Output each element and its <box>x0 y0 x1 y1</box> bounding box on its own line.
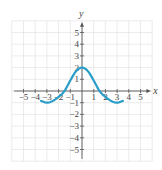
svg-text:3: 3 <box>115 92 120 102</box>
svg-text:−4: −4 <box>69 133 79 143</box>
svg-text:−3: −3 <box>69 121 79 131</box>
svg-text:−2: −2 <box>69 109 79 119</box>
svg-text:−3: −3 <box>42 92 52 102</box>
svg-text:−5: −5 <box>19 92 29 102</box>
svg-text:5: 5 <box>75 28 80 38</box>
svg-text:1: 1 <box>91 92 96 102</box>
y-axis-label: y <box>78 8 84 19</box>
svg-text:1: 1 <box>75 74 80 84</box>
svg-text:−1: −1 <box>69 98 79 108</box>
graph: −5−4−3−2−112345−5−4−3−2−112345 x y <box>0 0 162 170</box>
svg-text:3: 3 <box>75 51 80 61</box>
svg-text:5: 5 <box>138 92 143 102</box>
svg-text:4: 4 <box>75 39 80 49</box>
axes <box>14 22 151 159</box>
svg-text:−5: −5 <box>69 145 79 155</box>
svg-text:−4: −4 <box>30 92 40 102</box>
x-axis-label: x <box>152 85 158 96</box>
svg-text:4: 4 <box>127 92 132 102</box>
